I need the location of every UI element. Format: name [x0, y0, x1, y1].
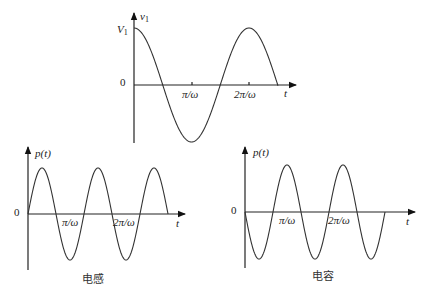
y-axis-label: v1: [140, 10, 149, 24]
tick-label-pi: π/ω: [182, 88, 199, 100]
tick-label-2pi: 2π/ω: [234, 88, 256, 100]
caption-capacitor: 电容: [312, 269, 334, 283]
tick-label-pi: π/ω: [279, 214, 296, 226]
tick-label-2pi: 2π/ω: [113, 216, 135, 228]
x-axis-label: t: [284, 87, 288, 99]
figure: v1 V1 0 π/ω 2π/ω t p(t) 0 π/ω 2π/ω t 电感 …: [0, 0, 426, 296]
inductor-panel: p(t) 0 π/ω 2π/ω t 电感: [14, 147, 185, 286]
origin-label: 0: [14, 206, 20, 218]
tick-label-2pi: 2π/ω: [328, 214, 350, 226]
x-axis-label: t: [406, 215, 410, 227]
amplitude-label: V1: [117, 23, 128, 37]
y-axis-label: p(t): [34, 147, 51, 160]
y-axis-label: p(t): [252, 146, 269, 159]
voltage-panel: v1 V1 0 π/ω 2π/ω t: [117, 10, 296, 143]
tick-label-pi: π/ω: [62, 216, 79, 228]
x-axis-label: t: [176, 217, 180, 229]
origin-label: 0: [231, 204, 237, 216]
capacitor-panel: p(t) 0 π/ω 2π/ω t 电容: [231, 146, 415, 283]
caption-inductor: 电感: [82, 273, 104, 286]
origin-label: 0: [120, 76, 126, 88]
